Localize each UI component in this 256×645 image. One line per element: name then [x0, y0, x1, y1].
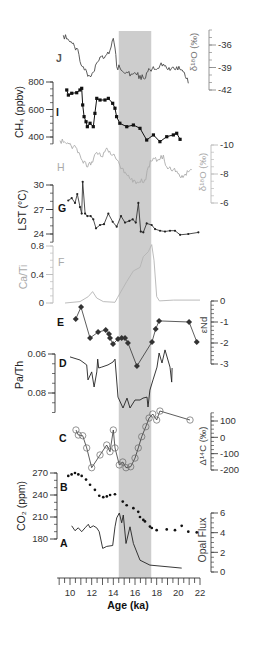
data-point	[194, 339, 200, 345]
y-tick-label: 6	[220, 507, 225, 518]
data-point	[142, 231, 144, 233]
data-point	[174, 230, 176, 232]
panel-letter-a: A	[60, 537, 68, 549]
data-point	[88, 122, 91, 125]
data-point	[77, 473, 80, 476]
panel-letter-e: E	[57, 316, 64, 328]
panel-i: 800600400	[28, 76, 182, 144]
data-point	[67, 199, 69, 201]
data-point	[116, 226, 118, 228]
y-tick-label: -39	[218, 62, 232, 73]
y-tick-label: -10	[220, 139, 234, 150]
data-point	[159, 230, 161, 232]
y-axis-title-eps-nd: εNd	[198, 317, 209, 333]
data-point	[85, 478, 88, 481]
data-point	[95, 227, 97, 229]
data-point	[86, 125, 89, 128]
y-tick-label: -1	[220, 316, 228, 327]
data-point	[187, 233, 189, 235]
data-point	[165, 528, 168, 531]
data-point	[169, 230, 171, 232]
shaded-interval-band	[119, 31, 152, 578]
data-point	[94, 489, 97, 492]
y-tick-label: 400	[28, 131, 44, 142]
data-point	[70, 473, 73, 476]
data-point	[95, 97, 98, 100]
data-point	[164, 230, 166, 232]
data-point	[140, 230, 142, 232]
data-point	[187, 530, 190, 533]
data-point	[102, 496, 105, 499]
y-tick-label: 2	[220, 547, 225, 558]
data-point	[128, 220, 130, 222]
data-point	[81, 212, 83, 214]
data-point	[139, 516, 142, 519]
data-point	[78, 304, 84, 310]
data-point	[174, 529, 177, 532]
data-point	[120, 215, 122, 217]
y-tick-label: 240	[32, 489, 48, 500]
y-tick-label: 800	[28, 76, 44, 87]
data-point	[113, 107, 116, 110]
data-point	[137, 511, 140, 514]
data-point	[70, 92, 73, 95]
y-axis-title-opal-flux: Opal Flux	[196, 517, 208, 563]
panel-c: 1000-100-200	[73, 408, 239, 475]
data-point	[114, 493, 117, 496]
data-point	[109, 494, 112, 497]
data-point	[103, 223, 105, 225]
y-axis-title-co2: CO₂ (ppm)	[15, 481, 27, 531]
data-point	[74, 202, 76, 204]
y-tick-label: 4	[220, 527, 225, 538]
data-point	[135, 221, 137, 223]
data-point	[155, 529, 158, 532]
data-point	[65, 88, 68, 91]
x-tick-label: 10	[65, 587, 76, 598]
y-tick-label: 0	[39, 297, 44, 308]
stacked-paleoclimate-chart: -36-39-42800600400-10-8-63027240.80.400-…	[0, 0, 256, 645]
x-tick-label: 20	[173, 587, 184, 598]
data-point	[179, 234, 181, 236]
y-axis-title-ch4: CH₄ (ppbv)	[13, 86, 25, 138]
data-point	[146, 222, 148, 224]
y-tick-label: 27	[33, 204, 44, 215]
y-axis-title-delta14c: Δ¹⁴C (‰)	[197, 427, 208, 466]
data-point	[186, 319, 192, 325]
panel-letter-c: C	[59, 432, 67, 444]
y-tick-label: 0.8	[31, 240, 44, 251]
panel-letter-d: D	[59, 357, 67, 369]
y-tick-label: 100	[220, 415, 236, 426]
y-tick-label: 0	[220, 295, 225, 306]
x-tick-label: 18	[151, 587, 162, 598]
data-point	[175, 132, 178, 135]
data-point	[153, 326, 159, 332]
data-point	[76, 193, 78, 195]
data-point	[80, 87, 83, 90]
data-point	[197, 231, 199, 233]
data-point	[73, 427, 79, 433]
data-point	[125, 504, 128, 507]
data-point	[115, 115, 118, 118]
data-point	[156, 318, 162, 324]
y-tick-label: -100	[220, 448, 239, 459]
data-point	[86, 215, 88, 217]
data-point	[172, 133, 175, 136]
y-axis-title-d18o-ice: δ¹⁸O (‰)	[188, 33, 199, 71]
y-tick-label: 0.08	[28, 387, 47, 398]
data-point	[71, 197, 73, 199]
data-point	[158, 140, 161, 143]
y-tick-label: -36	[218, 39, 232, 50]
y-tick-label: -200	[220, 464, 239, 475]
data-point	[132, 507, 135, 510]
panel-letter-h: H	[57, 161, 65, 173]
data-point	[84, 120, 87, 123]
data-point	[187, 417, 193, 423]
data-point	[111, 102, 114, 105]
data-point	[124, 221, 126, 223]
data-point	[132, 123, 135, 126]
panel-letter-i: I	[56, 106, 59, 118]
data-point	[84, 212, 86, 214]
data-point	[138, 127, 141, 130]
data-point	[107, 335, 113, 341]
y-tick-label: 270	[32, 467, 48, 478]
